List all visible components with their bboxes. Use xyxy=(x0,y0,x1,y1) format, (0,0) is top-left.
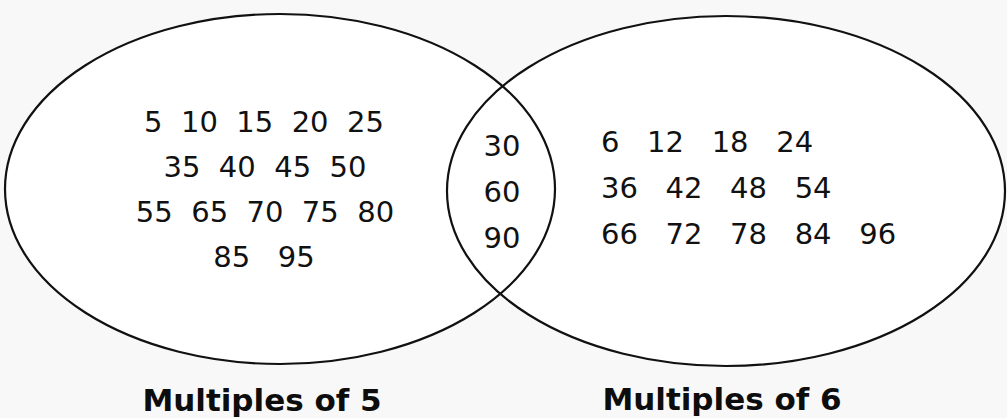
set-a-row: 55 65 70 75 80 xyxy=(136,195,394,229)
set-b-row: 6 12 18 24 xyxy=(601,125,813,159)
venn-diagram: 5 10 15 20 25 35 40 45 50 55 65 70 75 80… xyxy=(0,0,1007,418)
set-a-row: 85 95 xyxy=(213,240,314,274)
venn-svg: 5 10 15 20 25 35 40 45 50 55 65 70 75 80… xyxy=(0,0,1007,418)
set-b-row: 36 42 48 54 xyxy=(601,171,832,205)
intersection-value: 60 xyxy=(484,175,521,209)
intersection-value: 30 xyxy=(484,129,521,163)
set-a-row: 35 40 45 50 xyxy=(164,150,367,184)
set-b-row: 66 72 78 84 96 xyxy=(601,217,896,251)
set-b-label: Multiples of 6 xyxy=(602,381,841,417)
intersection-values: 30 60 90 xyxy=(484,129,521,255)
set-a-row: 5 10 15 20 25 xyxy=(144,105,384,139)
intersection-value: 90 xyxy=(484,221,521,255)
set-a-label: Multiples of 5 xyxy=(142,382,381,418)
